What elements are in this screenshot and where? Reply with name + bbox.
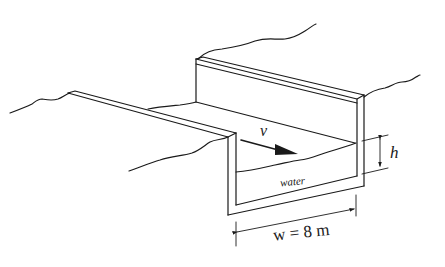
terrain-right-contour — [364, 75, 420, 97]
water-label: water — [279, 174, 306, 189]
terrain-lower-left-contour — [129, 137, 228, 171]
depth-label: h — [390, 143, 399, 162]
channel-diagram: v water h w = 8 m — [0, 0, 445, 267]
terrain-left-contour — [10, 93, 70, 113]
back-wall — [196, 57, 364, 186]
velocity-label: v — [260, 122, 268, 139]
diagram-canvas: v water h w = 8 m — [0, 0, 445, 267]
near-bank-ledge — [68, 91, 236, 215]
velocity-arrow — [241, 140, 298, 155]
terrain-back-contour — [198, 24, 316, 59]
depth-dimension — [362, 135, 388, 174]
far-bank-waterline — [148, 102, 355, 143]
water-surface — [236, 143, 356, 172]
